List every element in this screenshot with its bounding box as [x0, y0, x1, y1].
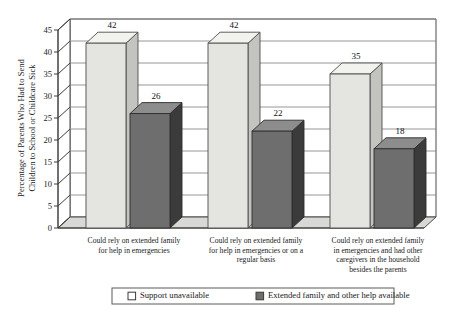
x-axis-category-line: in emergencies and had other: [334, 246, 423, 255]
y-axis-tick-label: 20: [44, 135, 53, 145]
bar-chart-figure: 051015202530354045422642223518Could rely…: [0, 0, 466, 322]
light-swatch-icon: [128, 292, 136, 300]
x-axis-category-line: Could rely on extended family: [332, 236, 425, 245]
y-axis-tick-label: 10: [44, 179, 53, 189]
y-axis-tick-label: 15: [44, 157, 53, 167]
bar-help-available-group-3: [374, 138, 426, 228]
y-axis-tick-label: 0: [48, 223, 52, 233]
legend-label-1: Support unavailable: [140, 290, 209, 300]
x-axis-category-label-2: Could rely on extended familyfor help in…: [209, 236, 304, 264]
x-axis-category-line: for help in emergencies or on a: [209, 246, 304, 255]
x-axis-category-line: Could rely on extended family: [210, 236, 303, 245]
dark-swatch-icon: [256, 292, 264, 300]
bar-value-label: 35: [352, 51, 362, 61]
bar-value-label: 22: [274, 108, 283, 118]
bar-side-face: [292, 120, 304, 228]
bar-side-face: [170, 103, 182, 228]
bar-side-face: [414, 138, 426, 228]
bar-front-face: [252, 131, 292, 228]
x-axis-category-label-1: Could rely on extended familyfor help in…: [88, 236, 181, 255]
bar-front-face: [330, 74, 370, 228]
bar-front-face: [86, 43, 126, 228]
y-axis-tick-label: 30: [44, 91, 53, 101]
y-axis-title-line: Children to School or Childcare Sick: [27, 64, 37, 192]
bar-front-face: [208, 43, 248, 228]
x-axis-category-line: for help in emergencies: [98, 246, 169, 255]
bar-value-label: 42: [230, 20, 239, 30]
bar-help-available-group-1: [130, 103, 182, 228]
y-axis-tick-label: 45: [44, 25, 53, 35]
x-axis-category-line: regular basis: [237, 255, 276, 264]
bar-value-label: 42: [108, 20, 117, 30]
legend-label-2: Extended family and other help available: [268, 290, 410, 300]
y-axis-tick-label: 40: [44, 47, 53, 57]
bar-front-face: [130, 114, 170, 228]
y-axis-tick-label: 5: [48, 201, 52, 211]
x-axis-category-line: besides the parents: [349, 265, 406, 274]
x-axis-category-line: Could rely on extended family: [88, 236, 181, 245]
x-axis-category-line: caregivers in the household: [336, 255, 419, 264]
x-axis-category-label-3: Could rely on extended familyin emergenc…: [332, 236, 425, 274]
bar-value-label: 26: [152, 91, 162, 101]
bar-help-available-group-2: [252, 120, 304, 228]
y-axis-title-line: Percentage of Parents Who Had to Send: [16, 58, 26, 196]
y-axis-tick-label: 25: [44, 113, 53, 123]
bar-front-face: [374, 149, 414, 228]
y-axis-title: Percentage of Parents Who Had to SendChi…: [16, 58, 37, 196]
chart-canvas: 051015202530354045422642223518Could rely…: [0, 0, 466, 322]
y-axis-tick-label: 35: [44, 69, 53, 79]
bar-value-label: 18: [396, 126, 406, 136]
